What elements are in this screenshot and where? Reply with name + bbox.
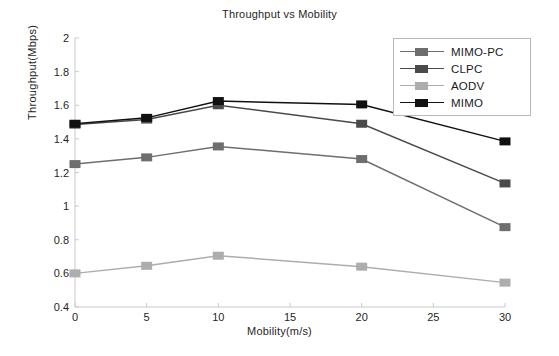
series-marker-aodv <box>141 262 152 270</box>
series-marker-mimo <box>70 120 81 128</box>
legend-swatch-mimo-pc <box>400 46 444 58</box>
legend-marker-aodv <box>415 82 428 90</box>
series-marker-aodv <box>213 252 224 260</box>
series-marker-mimo-pc <box>141 153 152 161</box>
legend-marker-mimo-pc <box>415 48 428 56</box>
series-marker-aodv <box>70 269 81 277</box>
series-marker-aodv <box>356 263 367 271</box>
series-line-aodv <box>75 256 505 283</box>
series-marker-mimo <box>213 97 224 105</box>
series-line-clpc <box>75 105 505 183</box>
series-marker-mimo-pc <box>356 155 367 163</box>
legend-label-mimo: MIMO <box>451 97 483 109</box>
series-marker-mimo-pc <box>70 160 81 168</box>
legend-swatch-aodv <box>400 80 444 92</box>
legend-item-mimo: MIMO <box>394 94 530 111</box>
legend-swatch-mimo <box>400 97 444 109</box>
legend-item-mimo-pc: MIMO-PC <box>394 43 530 60</box>
series-marker-clpc <box>356 120 367 128</box>
legend-swatch-clpc <box>400 63 444 75</box>
legend-label-clpc: CLPC <box>451 63 482 75</box>
series-marker-aodv <box>500 279 511 287</box>
series-marker-mimo-pc <box>213 142 224 150</box>
chart-figure: Throughput vs Mobility Throughput(Mbps) … <box>0 0 559 356</box>
legend-label-mimo-pc: MIMO-PC <box>451 46 504 58</box>
legend-marker-mimo <box>415 99 428 107</box>
series-marker-mimo <box>500 137 511 145</box>
series-marker-mimo <box>356 100 367 108</box>
series-marker-clpc <box>500 179 511 187</box>
chart-legend: MIMO-PC CLPC AODV MIMO <box>393 38 531 116</box>
series-marker-mimo <box>141 114 152 122</box>
legend-marker-clpc <box>415 65 428 73</box>
legend-item-clpc: CLPC <box>394 60 530 77</box>
legend-item-aodv: AODV <box>394 77 530 94</box>
series-line-mimo-pc <box>75 146 505 227</box>
legend-label-aodv: AODV <box>451 80 484 92</box>
series-marker-mimo-pc <box>500 223 511 231</box>
